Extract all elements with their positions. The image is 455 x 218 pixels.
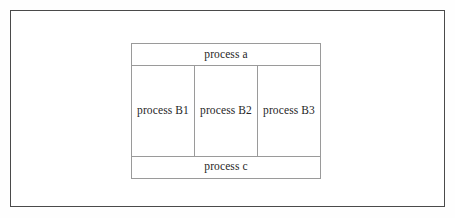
process-table-body: process a process B1 process B2 process … [132,44,321,179]
cell-process-c: process c [132,156,321,178]
figure-outer-frame: process a process B1 process B2 process … [10,10,445,207]
process-flow-table: process a process B1 process B2 process … [131,43,321,179]
cell-process-b1: process B1 [132,66,195,156]
cell-process-a: process a [132,44,321,66]
cell-process-b3: process B3 [258,66,321,156]
table-row-process-b: process B1 process B2 process B3 [132,66,321,156]
figure-canvas: process a process B1 process B2 process … [0,0,455,218]
table-row-process-a: process a [132,44,321,66]
table-row-process-c: process c [132,156,321,178]
cell-process-b2: process B2 [195,66,258,156]
